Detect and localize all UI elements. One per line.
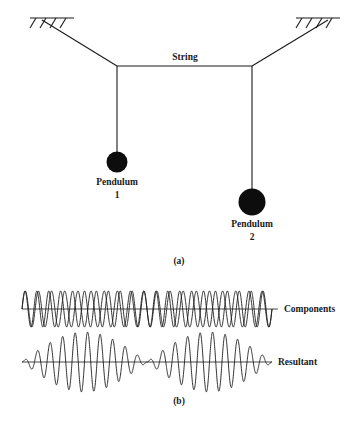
pendulum-2-bob [239,189,266,216]
panel-b-caption: (b) [173,396,185,407]
pendulum-2-label-line2: 2 [250,232,255,242]
suspension-cord-right [252,20,328,66]
figure-canvas: String Pendulum 1 Pendulum 2 (a) [0,0,358,422]
pendulum-2: Pendulum 2 [231,66,273,242]
string-label: String [172,52,198,62]
components-label: Components [284,304,336,314]
panel-a-pendulum-diagram: String Pendulum 1 Pendulum 2 (a) [30,18,340,267]
support-left-hatching [30,18,66,28]
pendulum-2-label-line1: Pendulum [231,219,273,229]
pendulum-1-label-line2: 1 [115,190,120,200]
support-right-hatching [296,18,332,28]
resultant-wave [22,332,272,392]
pendulum-1-bob [107,152,128,173]
components-plot: Components [22,291,336,327]
resultant-label: Resultant [278,357,318,367]
panel-b-waveforms: Components Resultant (b) [22,291,336,407]
pendulum-1-label-line1: Pendulum [96,177,138,187]
panel-a-caption: (a) [173,256,184,267]
resultant-plot: Resultant [22,332,318,392]
figure-coupled-pendulums-and-beats: String Pendulum 1 Pendulum 2 (a) [0,0,358,422]
pendulum-1: Pendulum 1 [96,66,138,200]
suspension-cord-left [42,20,117,66]
